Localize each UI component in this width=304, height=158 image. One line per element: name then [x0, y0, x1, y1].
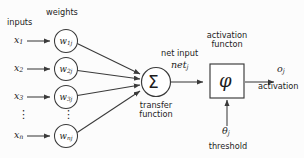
weight-label-n: wnj: [52, 131, 80, 141]
weights-header: weights: [46, 8, 78, 17]
net-input-symbol: netj: [171, 60, 189, 71]
input-label-3: x3: [14, 91, 23, 102]
weight-to-sum-1: [77, 44, 140, 75]
phi-icon: φ: [219, 70, 232, 91]
sigma-icon: Σ: [148, 72, 159, 92]
input-label-1: x1: [14, 35, 23, 46]
weight-ellipsis: ⋮: [63, 109, 74, 120]
weight-to-sum-2: [77, 71, 140, 80]
input-ellipsis: ⋮: [18, 109, 29, 120]
transfer-function-label-line2: function: [126, 110, 186, 119]
weight-label-3: w3j: [52, 92, 80, 102]
output-symbol: oj: [277, 64, 285, 75]
threshold-symbol: θj: [222, 126, 230, 137]
weight-label-2: w2j: [52, 64, 80, 74]
activation-function-label-line2: functon: [197, 40, 257, 49]
input-label-2: x2: [14, 63, 23, 74]
weight-label-1: w1j: [52, 36, 80, 46]
input-label-n: xn: [14, 130, 23, 141]
neuron-diagram: inputs weights x1 x2 x3 ⋮ xn w1j w2j w3j…: [0, 0, 304, 158]
inputs-header: inputs: [7, 18, 32, 27]
threshold-label: threshold: [199, 142, 257, 151]
net-input-label: net input: [161, 49, 198, 58]
activation-output-label: activation: [258, 82, 299, 91]
weight-to-sum-3: [77, 85, 140, 96]
